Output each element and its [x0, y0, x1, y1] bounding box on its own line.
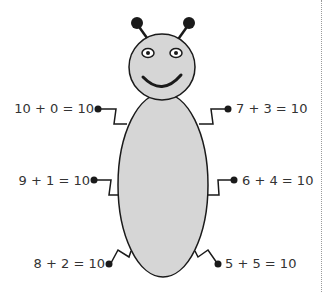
bug-body [118, 93, 208, 277]
equation-right-2: 6 + 4 = 10 [242, 173, 313, 189]
equation-left-1: 10 + 0 = 10 [4, 101, 94, 117]
leg-bottom-right [195, 250, 217, 263]
equation-left-2: 9 + 1 = 10 [4, 173, 90, 189]
leg-top-left [98, 109, 127, 124]
bug-diagram: 10 + 0 = 10 9 + 1 = 10 8 + 2 = 10 7 + 3 … [0, 0, 324, 292]
equation-left-3: 8 + 2 = 10 [4, 256, 105, 272]
leg-mid-left [94, 180, 121, 195]
equation-right-1: 7 + 3 = 10 [236, 101, 307, 117]
page-edge-divider [321, 0, 322, 292]
eye-left [142, 49, 154, 58]
leg-mid-right [207, 180, 234, 195]
bug-drawing [0, 0, 324, 292]
equation-right-3: 5 + 5 = 10 [225, 256, 296, 272]
eye-right [170, 49, 182, 58]
leg-top-right [199, 109, 227, 124]
bug-head [129, 34, 195, 100]
leg-bottom-left [111, 250, 131, 263]
